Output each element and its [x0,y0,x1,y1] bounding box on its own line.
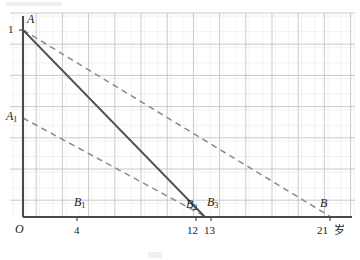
point-label-B1: B1 [74,196,85,208]
figure-container: 1 A A1 B1 B2 B3 B O 4 12 13 21 岁 [0,0,360,260]
point-label-B3: B3 [207,196,218,208]
plot-canvas [0,0,360,260]
x-tick-label-21: 21 [317,225,328,236]
point-label-B1-subscript: 1 [81,201,85,210]
x-tick-label-13: 13 [204,225,215,236]
origin-label: O [15,223,24,235]
grid-minor [10,13,355,218]
y-tick-label-1: 1 [8,24,14,35]
point-label-B3-subscript: 3 [214,201,218,210]
point-label-A1-subscript: 1 [13,115,17,124]
x-tick-label-4: 4 [74,225,80,236]
point-label-B: B [320,197,327,209]
x-tick-label-12: 12 [187,225,198,236]
point-label-A1: A1 [6,110,17,122]
point-label-A: A [27,13,34,25]
point-label-B2-subscript: 2 [193,203,197,212]
x-axis-unit-label: 岁 [334,225,345,236]
point-label-B2: B2 [186,198,197,210]
